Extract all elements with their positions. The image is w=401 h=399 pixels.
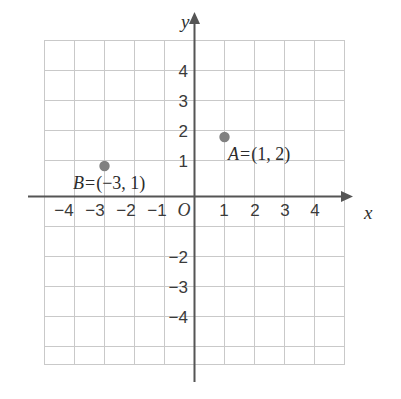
y-tick-label-2: 2: [179, 123, 188, 140]
x-tick-label-1: 1: [219, 202, 228, 219]
point-label-B-name: B: [73, 173, 84, 193]
x-tick-label--1: −1: [147, 202, 166, 219]
coordinate-plane-figure: y x O −4 −3 −2 −1 1 2 3 4 4 3 2 1 −2 −3 …: [0, 0, 401, 399]
x-axis-label: x: [364, 203, 372, 222]
x-tick-label--2: −2: [116, 202, 135, 219]
x-tick-label--4: −4: [54, 202, 73, 219]
y-tick-label--3: −3: [169, 279, 188, 296]
y-tick-label-4: 4: [179, 63, 188, 80]
point-label-A-coords: (1, 2): [251, 144, 290, 164]
point-label-B-coords: (−3, 1): [96, 173, 145, 193]
y-axis-arrowhead: [189, 12, 200, 24]
point-marker-A: [219, 132, 229, 142]
plot-canvas: [0, 0, 401, 399]
x-tick-label-2: 2: [250, 202, 259, 219]
point-label-A-equals: =: [239, 144, 251, 164]
y-tick-label--4: −4: [169, 309, 188, 326]
point-label-B-equals: =: [84, 173, 96, 193]
point-label-A: A=(1, 2): [228, 145, 290, 163]
x-tick-label--3: −3: [85, 202, 104, 219]
point-label-B: B=(−3, 1): [73, 174, 145, 192]
y-tick-label-3: 3: [179, 93, 188, 110]
x-axis-arrowhead: [341, 191, 353, 202]
point-marker-B: [99, 161, 109, 171]
y-axis-label: y: [181, 12, 189, 31]
x-tick-label-4: 4: [310, 202, 319, 219]
origin-label: O: [178, 201, 191, 219]
y-tick-label-1: 1: [179, 153, 188, 170]
x-tick-label-3: 3: [280, 202, 289, 219]
y-tick-label--2: −2: [169, 249, 188, 266]
point-label-A-name: A: [228, 144, 239, 164]
